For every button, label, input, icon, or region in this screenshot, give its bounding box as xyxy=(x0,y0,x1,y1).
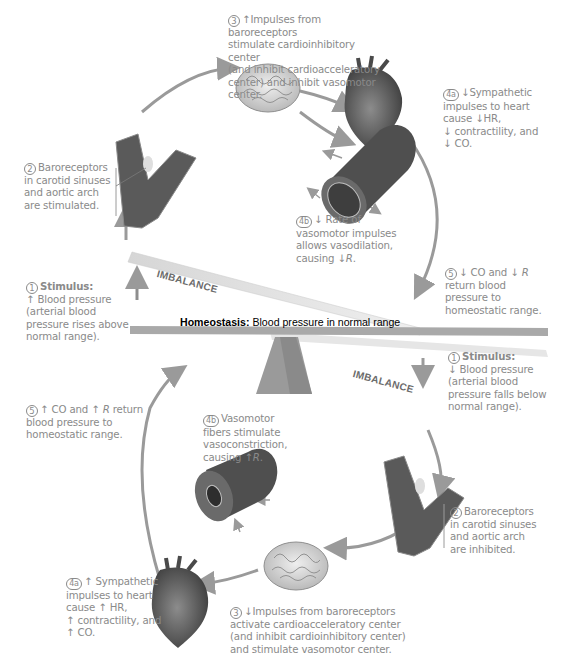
text-line: ↓ Rate of xyxy=(314,214,361,225)
lower-step2-label: 2Baroreceptors in carotid sinuses and ao… xyxy=(450,506,563,556)
step-number-badge: 3 xyxy=(228,15,240,27)
text-line: . xyxy=(260,452,263,463)
brain-icon-lower xyxy=(264,542,328,590)
text-line: in carotid sinuses xyxy=(450,519,536,530)
text-line: return xyxy=(110,404,143,415)
text-line: vasoconstriction, xyxy=(203,439,287,450)
text-line: cause ↑ HR, xyxy=(66,602,127,613)
step-number-badge: 4b xyxy=(203,415,219,427)
text-line: ↓ CO and ↓ xyxy=(459,267,522,278)
text-line: (and inhibit cardioinhibitory center) xyxy=(230,631,406,642)
step-number-badge: 4a xyxy=(443,89,459,101)
step-number-badge: 2 xyxy=(24,163,36,175)
text-line: ↑ Blood pressure xyxy=(26,294,111,305)
text-line: pressure to xyxy=(445,292,501,303)
text-line: blood pressure to xyxy=(26,417,112,428)
text-line: (and inhibit cardioacceleratory xyxy=(228,64,380,75)
homeostasis-title: Homeostasis: xyxy=(180,316,249,328)
text-line: Baroreceptors xyxy=(464,506,534,517)
upper-step5-label: 5↓ CO and ↓ R return blood pressure to h… xyxy=(445,267,563,317)
upper-step1-label: 1Stimulus: ↑ Blood pressure (arterial bl… xyxy=(26,281,146,344)
text-line: and stimulate vasomotor center. xyxy=(230,644,392,655)
text-line: stimulate cardioinhibitory center xyxy=(228,39,355,62)
text-line: . xyxy=(353,253,356,264)
text-line: and aortic arch xyxy=(450,531,525,542)
text-line: ↑ Sympathetic xyxy=(84,576,158,587)
text-line: homeostatic range. xyxy=(26,429,122,440)
step-number-badge: 4b xyxy=(296,216,312,228)
stimulus-title: Stimulus: xyxy=(40,281,93,292)
lower-step5-label: 5↑ CO and ↑ R return blood pressure to h… xyxy=(26,404,166,442)
text-line: pressure falls below xyxy=(448,389,546,400)
text-line: pressure rises above xyxy=(26,319,129,330)
step-number-badge: 3 xyxy=(230,607,242,619)
lower-step3-label: 3↓Impulses from baroreceptors activate c… xyxy=(230,606,430,656)
text-line: are stimulated. xyxy=(24,200,99,211)
lower-step4b-label: 4bVasomotor fibers stimulate vasoconstri… xyxy=(203,413,313,464)
resistance-symbol: R xyxy=(253,452,260,463)
text-line: causing ↑ xyxy=(203,452,253,463)
text-line: allows vasodilation, xyxy=(296,240,393,251)
text-line: in carotid sinuses xyxy=(24,175,110,186)
carotid-artery-icon-upper xyxy=(116,134,196,228)
step-number-badge: 5 xyxy=(445,268,457,280)
stimulus-title: Stimulus: xyxy=(462,351,515,362)
text-line: normal range). xyxy=(26,331,100,342)
text-line: and aortic arch xyxy=(24,187,99,198)
upper-step4b-label: 4b↓ Rate of vasomotor impulses allows va… xyxy=(296,214,416,265)
text-line: vasomotor impulses xyxy=(296,228,396,239)
text-line: center. xyxy=(228,89,262,100)
text-line: (arterial blood xyxy=(448,376,518,387)
text-line: ↑ CO. xyxy=(66,627,95,638)
resistance-symbol: R xyxy=(103,404,110,415)
text-line: normal range). xyxy=(448,401,522,412)
text-line: fibers stimulate xyxy=(203,427,280,438)
text-line: impulses to heart xyxy=(66,590,153,601)
upper-step4a-label: 4a↓Sympathetic impulses to heart cause ↓… xyxy=(443,87,561,151)
step-number-badge: 1 xyxy=(448,352,460,364)
text-line: impulses to heart xyxy=(443,101,530,112)
homeostasis-text: Blood pressure in normal range xyxy=(249,316,400,328)
text-line: causing ↓ xyxy=(296,253,346,264)
text-line: ↓Impulses from baroreceptors xyxy=(244,606,395,617)
text-line: (arterial blood xyxy=(26,306,96,317)
upper-step2-label: 2Baroreceptors in carotid sinuses and ao… xyxy=(24,162,124,212)
text-line: cause ↓HR, xyxy=(443,113,501,124)
text-line: center) and inhibit vasomotor xyxy=(228,77,376,88)
text-line: activate cardioacceleratory center xyxy=(230,619,400,630)
text-line: ↓ CO. xyxy=(443,138,472,149)
text-line: Vasomotor xyxy=(221,413,274,424)
upper-step3-label: 3↑Impulses from baroreceptors stimulate … xyxy=(228,14,388,101)
lower-step1-label: 1Stimulus: ↓ Blood pressure (arterial bl… xyxy=(448,351,563,414)
resistance-symbol: R xyxy=(346,253,353,264)
text-line: ↓Sympathetic xyxy=(461,87,532,98)
step-number-badge: 2 xyxy=(450,507,462,519)
step-number-badge: 5 xyxy=(26,405,38,417)
text-line: are inhibited. xyxy=(450,544,515,555)
text-line: ↑ contractility, and xyxy=(66,615,161,626)
step-number-badge: 1 xyxy=(26,282,38,294)
text-line: ↓ Blood pressure xyxy=(448,364,533,375)
text-line: ↑Impulses from baroreceptors xyxy=(228,14,321,38)
lower-step4a-label: 4a↑ Sympathetic impulses to heart cause … xyxy=(66,576,166,640)
homeostasis-label: Homeostasis: Blood pressure in normal ra… xyxy=(180,316,400,328)
text-line: homeostatic range. xyxy=(445,305,541,316)
text-line: return blood xyxy=(445,280,506,291)
text-line: ↓ contractility, and xyxy=(443,126,538,137)
step-number-badge: 4a xyxy=(66,578,82,590)
text-line: ↑ CO and ↑ xyxy=(40,404,103,415)
resistance-symbol: R xyxy=(522,267,529,278)
text-line: Baroreceptors xyxy=(38,162,108,173)
